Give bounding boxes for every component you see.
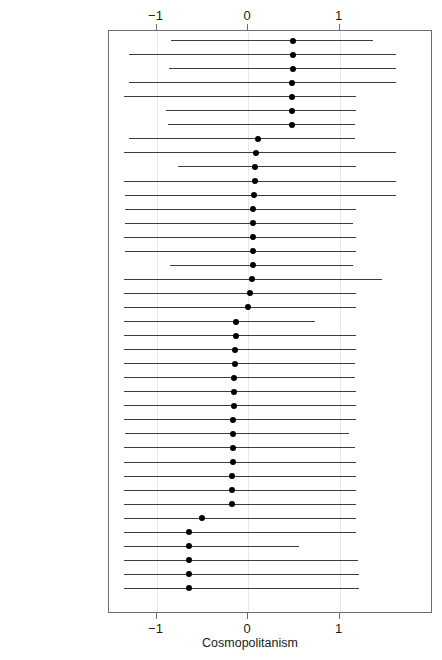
data-row <box>109 245 431 259</box>
point-estimate-dot <box>230 459 236 465</box>
tick-mark-bottom-1 <box>247 613 248 619</box>
point-estimate-dot <box>289 122 295 128</box>
data-row <box>109 189 431 203</box>
tick-label-top-0: −1 <box>148 8 163 23</box>
data-row <box>109 343 431 357</box>
point-estimate-dot <box>289 94 295 100</box>
point-estimate-dot <box>229 501 235 507</box>
data-row <box>109 203 431 217</box>
tick-label-top-2: 1 <box>335 8 342 23</box>
point-estimate-dot <box>290 66 296 72</box>
point-estimate-dot <box>233 333 239 339</box>
tick-mark-top-2 <box>339 24 340 30</box>
point-estimate-dot <box>289 108 295 114</box>
x-axis-title: Cosmopolitanism <box>0 636 442 650</box>
tick-mark-bottom-2 <box>339 613 340 619</box>
data-row <box>109 526 431 540</box>
data-row <box>109 470 431 484</box>
point-estimate-dot <box>186 557 192 563</box>
data-row <box>109 498 431 512</box>
point-estimate-dot <box>231 389 237 395</box>
data-row <box>109 146 431 160</box>
data-row <box>109 371 431 385</box>
data-row <box>109 48 431 62</box>
data-row <box>109 301 431 315</box>
point-estimate-dot <box>229 473 235 479</box>
confidence-interval-line <box>169 68 396 69</box>
tick-label-bottom-1: 0 <box>243 621 250 636</box>
point-estimate-dot <box>245 304 251 310</box>
point-estimate-dot <box>252 178 258 184</box>
point-estimate-dot <box>186 571 192 577</box>
data-row <box>109 62 431 76</box>
confidence-interval-line <box>124 588 359 589</box>
point-estimate-dot <box>229 487 235 493</box>
point-estimate-dot <box>232 347 238 353</box>
confidence-interval-line <box>124 293 356 294</box>
confidence-interval-line <box>124 321 315 322</box>
data-row <box>109 104 431 118</box>
confidence-interval-line <box>124 574 359 575</box>
data-row <box>109 385 431 399</box>
data-row <box>109 175 431 189</box>
data-row <box>109 76 431 90</box>
x-axis-title-text: Cosmopolitanism <box>202 636 298 650</box>
point-estimate-dot <box>253 150 259 156</box>
confidence-interval-line <box>166 110 356 111</box>
point-estimate-dot <box>186 585 192 591</box>
point-estimate-dot <box>250 206 256 212</box>
confidence-interval-line <box>125 251 356 252</box>
data-row <box>109 512 431 526</box>
chart-root: Cosmopolitanism −1−10011VirginiaNevadaCa… <box>0 0 442 660</box>
confidence-interval-line <box>124 532 356 533</box>
confidence-interval-line <box>124 405 356 406</box>
data-row <box>109 273 431 287</box>
data-row <box>109 259 431 273</box>
data-row <box>109 484 431 498</box>
confidence-interval-line <box>124 518 356 519</box>
data-row <box>109 329 431 343</box>
point-estimate-dot <box>250 262 256 268</box>
data-row <box>109 456 431 470</box>
point-estimate-dot <box>233 319 239 325</box>
tick-mark-bottom-0 <box>156 613 157 619</box>
confidence-interval-line <box>170 265 353 266</box>
tick-label-bottom-0: −1 <box>148 621 163 636</box>
confidence-interval-line <box>124 504 356 505</box>
confidence-interval-line <box>124 349 356 350</box>
confidence-interval-line <box>124 335 355 336</box>
data-row <box>109 357 431 371</box>
point-estimate-dot <box>250 220 256 226</box>
confidence-interval-line <box>124 377 355 378</box>
confidence-interval-line <box>124 96 355 97</box>
point-estimate-dot <box>250 248 256 254</box>
data-row <box>109 582 431 596</box>
data-row <box>109 118 431 132</box>
point-estimate-dot <box>289 80 295 86</box>
confidence-interval-line <box>124 447 355 448</box>
confidence-interval-line <box>178 166 356 167</box>
confidence-interval-line <box>129 82 396 83</box>
point-estimate-dot <box>247 290 253 296</box>
data-row <box>109 399 431 413</box>
data-row <box>109 540 431 554</box>
confidence-interval-line <box>124 419 356 420</box>
confidence-interval-line <box>124 462 356 463</box>
confidence-interval-line <box>124 307 356 308</box>
tick-mark-top-0 <box>156 24 157 30</box>
confidence-interval-line <box>124 152 397 153</box>
confidence-interval-line <box>124 391 356 392</box>
data-row <box>109 427 431 441</box>
confidence-interval-line <box>168 124 355 125</box>
confidence-interval-line <box>124 546 300 547</box>
point-estimate-dot <box>230 445 236 451</box>
point-estimate-dot <box>290 38 296 44</box>
data-row <box>109 287 431 301</box>
confidence-interval-line <box>124 181 396 182</box>
point-estimate-dot <box>231 403 237 409</box>
data-row <box>109 413 431 427</box>
point-estimate-dot <box>290 52 296 58</box>
point-estimate-dot <box>230 417 236 423</box>
data-row <box>109 315 431 329</box>
data-row <box>109 34 431 48</box>
